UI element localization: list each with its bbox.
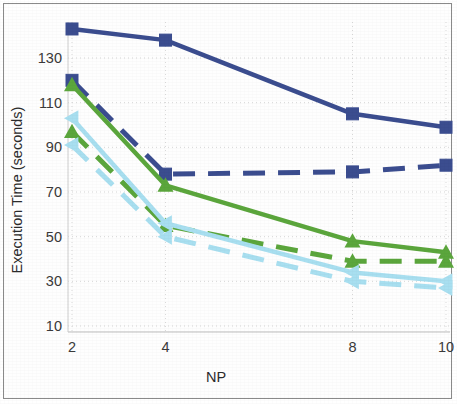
y-tick-label: 50	[46, 229, 62, 245]
y-tick-label: 130	[38, 50, 62, 66]
data-point-triangle-left	[64, 110, 78, 126]
y-tick-label: 110	[39, 95, 62, 111]
y-axis-title: Execution Time (seconds)	[9, 107, 25, 274]
y-tick-label: 10	[46, 318, 62, 334]
series-dark-blue-solid-square	[66, 23, 452, 133]
series-line	[72, 145, 446, 288]
series-line	[72, 132, 446, 262]
y-axis-tick-labels: 1030507090110130	[38, 50, 62, 334]
chart-figure: 1030507090110130 24810 NP Execution Time…	[0, 0, 457, 404]
series-dark-blue-dashed-square	[66, 74, 452, 180]
x-tick-label: 4	[161, 339, 169, 355]
data-point-square	[440, 121, 452, 133]
y-tick-label: 90	[46, 139, 62, 155]
line-chart-plot: 1030507090110130 24810 NP Execution Time…	[0, 0, 457, 404]
data-point-square	[440, 159, 452, 171]
data-point-square	[160, 34, 172, 46]
series-light-blue-dashed-triangle	[64, 137, 452, 296]
data-point-square	[347, 108, 359, 120]
data-point-triangle-left	[64, 137, 78, 153]
data-point-square	[66, 23, 78, 35]
data-series-group	[64, 23, 454, 296]
series-line	[72, 29, 446, 127]
x-axis-tick-labels: 24810	[68, 339, 454, 355]
x-axis-title: NP	[206, 369, 226, 385]
series-line	[72, 80, 446, 174]
data-point-square	[347, 166, 359, 178]
y-tick-label: 70	[46, 184, 62, 200]
x-tick-label: 10	[438, 339, 454, 355]
x-tick-label: 8	[348, 339, 356, 355]
y-tick-label: 30	[46, 273, 62, 289]
x-tick-label: 2	[68, 339, 76, 355]
